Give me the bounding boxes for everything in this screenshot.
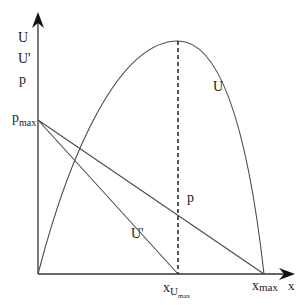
marginal-utility-line-U-prime	[38, 120, 178, 274]
p-max-sub: max	[19, 117, 36, 128]
y-axis-label-p: p	[19, 72, 26, 87]
x-max-label: xmax	[252, 278, 278, 293]
economics-diagram: U U' p pmax U p U' xUmax xmax x	[0, 0, 305, 305]
x-max-sub: max	[259, 281, 278, 293]
p-line-label: p	[187, 190, 194, 205]
x-Umax-main: x	[163, 280, 170, 295]
U-curve-label: U	[213, 79, 223, 94]
price-line-p	[38, 120, 264, 274]
x-Umax-subsub: max	[178, 292, 191, 300]
x-Umax-sub: U	[170, 285, 178, 297]
x-max-main: x	[252, 278, 259, 293]
y-axis-label-U: U	[18, 30, 28, 45]
y-axis-label-U-prime: U'	[18, 51, 31, 66]
p-max-label: pmax	[12, 110, 36, 128]
p-max-main: p	[12, 110, 19, 125]
x-Umax-label: xUmax	[163, 280, 191, 300]
U-prime-line-label: U'	[131, 226, 144, 241]
x-axis-label: x	[288, 278, 295, 293]
